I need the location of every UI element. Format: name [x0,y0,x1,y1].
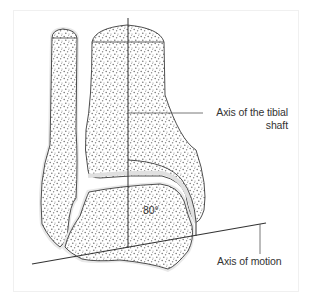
motion-axis-label: Axis of motion [217,255,282,268]
fibula [39,27,79,250]
angle-label: 80° [143,204,159,217]
tibial-axis-label: Axis of the tibial shaft [210,106,288,132]
tibial-axis-label-line2: shaft [210,119,288,132]
tibial-axis-label-line1: Axis of the tibial [210,106,288,119]
